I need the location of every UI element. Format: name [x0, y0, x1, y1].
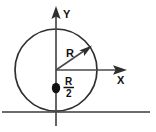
filled-dot-icon: [52, 83, 60, 93]
half-radius-denominator: 2: [66, 88, 72, 99]
half-radius-numerator: R: [65, 76, 73, 87]
diagram-canvas: Y X R R 2: [0, 0, 156, 132]
y-axis-label: Y: [63, 8, 71, 20]
x-axis-label: X: [117, 74, 125, 86]
radius-label: R: [66, 47, 74, 59]
geometry-diagram: Y X R R 2: [0, 0, 156, 132]
arrow-diagonal-icon: [79, 46, 92, 57]
